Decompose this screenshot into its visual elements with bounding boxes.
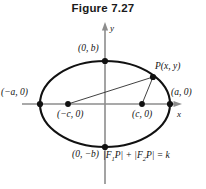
focal-radius-left: [68, 77, 153, 104]
label-focus-right: (c, 0): [132, 110, 152, 120]
y-axis-arrowhead: [102, 22, 108, 31]
focus-right-point: [139, 101, 145, 107]
vertex-left-point: [37, 101, 43, 107]
label-vertex-right: (a, 0): [171, 88, 192, 98]
point-p-marker: [150, 74, 156, 80]
label-focus-left: (−c, 0): [57, 110, 83, 120]
label-vertex-left: (−a, 0): [1, 88, 28, 98]
eq-bar-close-1: |: [121, 150, 124, 160]
label-x-axis: x: [177, 110, 181, 119]
label-covertex-bottom: (0, −b): [72, 150, 99, 160]
eq-equals: = k: [157, 150, 170, 160]
x-axis-arrowhead: [174, 101, 183, 107]
eq-plus: +: [126, 150, 132, 160]
focal-radius-right: [142, 77, 153, 104]
label-y-axis: y: [110, 24, 114, 33]
eq-bar-close-2: |: [152, 150, 155, 160]
figure-container: Figure 7.27 (−a, 0) (a, 0) (0, b) (0, −b…: [0, 0, 206, 189]
focus-left-point: [65, 101, 71, 107]
vertex-right-point: [167, 101, 173, 107]
label-point-p: P(x, y): [155, 62, 180, 72]
label-covertex-top: (0, b): [78, 44, 99, 54]
focal-sum-equation: |F1P| + |F2P| = k: [103, 151, 170, 162]
covertex-top-point: [102, 58, 108, 64]
